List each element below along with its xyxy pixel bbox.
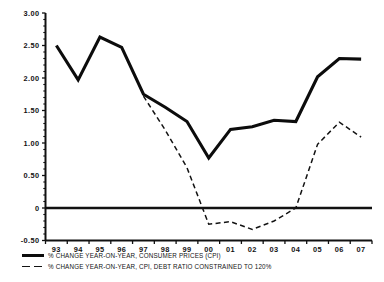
- y-axis-tick-labels: 3.002.502.001.501.000.500-0.50: [21, 9, 40, 246]
- series-line-cpi: [56, 37, 361, 158]
- legend-item-cpi-debt-constrained: % CHANGE YEAR-ON-YEAR, CPI, DEBT RATIO C…: [22, 261, 374, 272]
- y-tick-label: 0.50: [24, 171, 40, 180]
- y-tick-label: 2.00: [24, 74, 40, 83]
- line-chart-plot: 3.002.502.001.501.000.500-0.50 939495969…: [0, 0, 384, 282]
- legend-label-cpi: % CHANGE YEAR-ON-YEAR, CONSUMER PRICES (…: [44, 252, 221, 259]
- y-tick-label: 3.00: [24, 9, 40, 18]
- legend-item-cpi: % CHANGE YEAR-ON-YEAR, CONSUMER PRICES (…: [22, 250, 374, 261]
- chart-container: 3.002.502.001.501.000.500-0.50 939495969…: [0, 0, 384, 282]
- legend-dashed-line-icon: [22, 261, 44, 272]
- y-tick-label: 0: [35, 204, 40, 213]
- y-axis-group: 3.002.502.001.501.000.500-0.50: [21, 9, 46, 246]
- y-tick-label: -0.50: [21, 236, 40, 245]
- y-tick-label: 1.50: [24, 106, 40, 115]
- y-tick-label: 2.50: [24, 41, 40, 50]
- legend-solid-line-icon: [22, 250, 44, 261]
- y-tick-label: 1.00: [24, 139, 40, 148]
- legend-label-cpi-debt-constrained: % CHANGE YEAR-ON-YEAR, CPI, DEBT RATIO C…: [44, 263, 272, 270]
- chart-legend: % CHANGE YEAR-ON-YEAR, CONSUMER PRICES (…: [22, 250, 374, 272]
